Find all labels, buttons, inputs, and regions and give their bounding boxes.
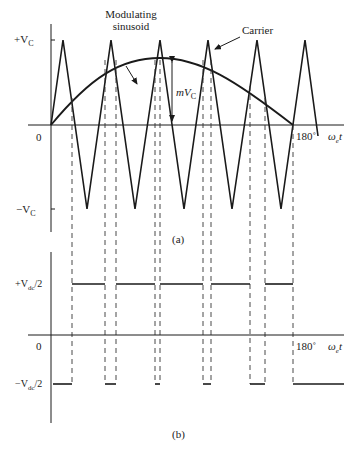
tick-label-180-b: 180˚: [296, 340, 316, 352]
tick-label-zero-b: 0: [36, 340, 42, 352]
x-axis-label-b: ωet: [328, 340, 342, 357]
tick-label-plus-vdc: +Vdc/2: [15, 278, 42, 294]
x-axis-label-a: ωet: [328, 130, 342, 147]
carrier-pointer: [215, 37, 240, 49]
tick-label-plus-vc: +VC: [14, 33, 34, 50]
modulating-label: Modulating sinusoid: [96, 8, 166, 32]
tick-label-zero-a: 0: [36, 131, 42, 143]
panel-b: [28, 252, 344, 423]
tick-label-minus-vdc: −Vdc/2: [15, 378, 42, 394]
modulating-pointer: [126, 66, 137, 84]
caption-b: (b): [172, 428, 185, 440]
tick-label-180-a: 180˚: [296, 130, 316, 142]
panel-a: [28, 24, 344, 232]
amplitude-label: mVC: [176, 86, 196, 103]
carrier-label: Carrier: [242, 24, 273, 36]
tick-label-minus-vc: −VC: [16, 203, 36, 220]
pwm-diagram: [0, 0, 360, 452]
caption-a: (a): [172, 233, 184, 245]
